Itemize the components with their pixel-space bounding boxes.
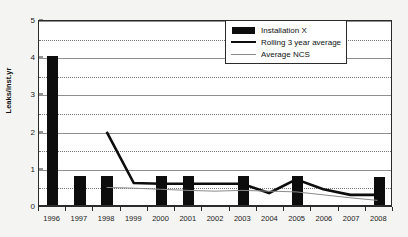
- x-tick-label: 1998: [98, 214, 115, 223]
- y-tick-mark: [39, 168, 43, 169]
- y-tick-mark: [39, 20, 43, 21]
- x-tick-label: 2006: [316, 214, 333, 223]
- x-tick-mark: [147, 207, 148, 211]
- line-rolling-average: [107, 132, 378, 195]
- y-tick-label: 1: [31, 164, 39, 173]
- x-tick-mark: [201, 207, 202, 211]
- x-tick-label: 1997: [71, 214, 88, 223]
- thick-line-icon: [230, 41, 257, 43]
- x-tick-mark: [174, 207, 175, 211]
- line-average-ncs: [107, 187, 378, 200]
- legend-label: Installation X: [261, 26, 307, 35]
- chart-legend: Installation X Rolling 3 year average Av…: [225, 20, 347, 64]
- x-tick-label: 2001: [179, 214, 196, 223]
- x-tick-mark: [256, 207, 257, 211]
- thin-line-icon: [230, 54, 257, 55]
- y-tick-mark: [39, 94, 43, 95]
- x-tick-label: 2004: [261, 214, 278, 223]
- x-tick-mark: [38, 207, 39, 211]
- legend-label: Rolling 3 year average: [261, 38, 341, 47]
- legend-label: Average NCS: [261, 50, 310, 59]
- x-tick-mark: [283, 207, 284, 211]
- y-tick-mark: [39, 131, 43, 132]
- x-tick-label: 2008: [370, 214, 387, 223]
- x-tick-label: 2007: [343, 214, 360, 223]
- legend-item-installation-x: Installation X: [230, 24, 341, 36]
- y-tick-label: 4: [31, 53, 39, 62]
- x-tick-mark: [65, 207, 66, 211]
- x-tick-label: 1999: [125, 214, 142, 223]
- x-tick-mark: [92, 207, 93, 211]
- legend-item-rolling-average: Rolling 3 year average: [230, 36, 341, 48]
- y-tick-mark: [39, 57, 43, 58]
- y-tick-label: 2: [31, 127, 39, 136]
- x-tick-mark: [365, 207, 366, 211]
- x-axis: 1996199719981999200020012002200320042005…: [38, 206, 392, 207]
- bar-swatch-icon: [230, 27, 257, 34]
- x-tick-label: 2002: [207, 214, 224, 223]
- x-tick-label: 2005: [288, 214, 305, 223]
- x-tick-mark: [310, 207, 311, 211]
- x-tick-mark: [338, 207, 339, 211]
- y-tick-label: 5: [31, 16, 39, 25]
- y-axis: 012345: [38, 20, 39, 206]
- x-tick-mark: [392, 207, 393, 211]
- leaks-per-installation-chart: Leaks/inst.yr 012345 1996199719981999200…: [0, 0, 408, 237]
- x-tick-mark: [229, 207, 230, 211]
- x-tick-label: 2003: [234, 214, 251, 223]
- y-axis-title: Leaks/inst.yr: [4, 31, 13, 151]
- legend-item-average-ncs: Average NCS: [230, 48, 341, 60]
- x-tick-label: 1996: [43, 214, 60, 223]
- x-tick-mark: [120, 207, 121, 211]
- y-tick-label: 3: [31, 90, 39, 99]
- x-tick-label: 2000: [152, 214, 169, 223]
